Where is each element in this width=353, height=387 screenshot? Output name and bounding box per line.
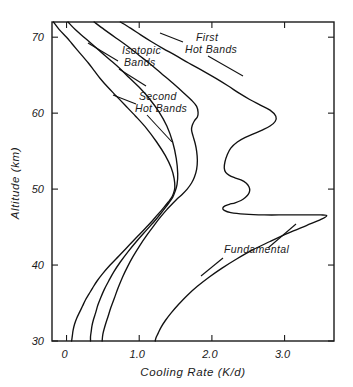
cooling-rate-altitude-chart: 01.02.03.0 3040506070 Isotopic Bands Fir… (0, 0, 353, 387)
chart-svg: 01.02.03.0 3040506070 Isotopic Bands Fir… (0, 0, 353, 387)
x-tick-label-2: 2.0 (201, 348, 218, 360)
x-tick-label-3: 3.0 (275, 348, 291, 360)
y-tick-label-1: 40 (32, 259, 45, 271)
x-tick-label-0: 0 (61, 348, 68, 360)
x-axis-title: Cooling Rate (K/d) (140, 366, 245, 378)
y-tick-label-0: 30 (32, 335, 45, 347)
annotation-fundamental: Fundamental (224, 243, 289, 255)
y-axis-title: Altitude (km) (9, 147, 21, 220)
annotation-isotopic-bands-line1: Isotopic (122, 44, 161, 56)
x-tick-label-1: 1.0 (130, 348, 146, 360)
y-tick-label-2: 50 (32, 183, 45, 195)
annotation-first-hot-bands-line1: First (196, 31, 219, 43)
annotation-second-hot-bands-line1: Second (139, 90, 178, 102)
annotation-first-hot-bands-line2: Hot Bands (185, 43, 238, 55)
y-tick-label-3: 60 (32, 107, 45, 119)
annotation-isotopic-bands-line2: Bands (124, 56, 156, 68)
chart-background (0, 0, 353, 387)
annotation-second-hot-bands-line2: Hot Bands (135, 102, 188, 114)
y-tick-label-4: 70 (32, 31, 45, 43)
